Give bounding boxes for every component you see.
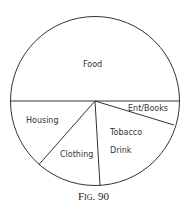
pie-chart: Food Ent/Books Tobacco Drink Housing Clo… <box>0 0 187 209</box>
label-clothing: Clothing <box>60 150 93 159</box>
figure-caption: Fig. 90 <box>0 190 187 202</box>
label-tobacco: Tobacco <box>109 128 142 137</box>
label-ent-books: Ent/Books <box>128 104 168 113</box>
label-drink: Drink <box>110 146 132 155</box>
label-food: Food <box>83 60 102 69</box>
slice-divider-tobacco <box>95 101 100 186</box>
label-housing: Housing <box>26 116 59 125</box>
